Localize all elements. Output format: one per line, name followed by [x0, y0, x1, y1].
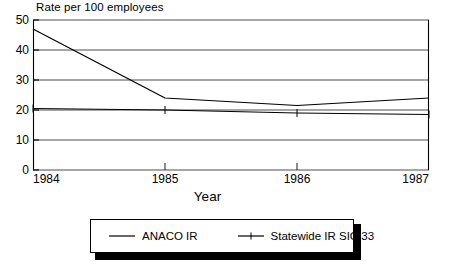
gridlines [33, 20, 429, 170]
x-axis-tick-labels: 1984 1985 1986 1987 [0, 172, 455, 188]
y-tick-label: 10 [1, 134, 29, 146]
legend-item-anaco-ir[interactable]: ANACO IR [109, 230, 198, 243]
x-tick-label: 1985 [152, 172, 179, 186]
x-axis-label-text: Year [194, 189, 221, 204]
plain-line-icon [109, 231, 135, 241]
axis-spines [34, 20, 429, 170]
plot-area [33, 20, 429, 170]
legend-item-label: Statewide IR SIC 33 [271, 230, 375, 243]
line-with-marker-icon [238, 231, 264, 241]
x-tick-label: 1986 [284, 172, 311, 186]
y-tick-label: 20 [1, 104, 29, 116]
y-tick-label: 50 [1, 14, 29, 26]
series-line-anaco-ir [33, 29, 429, 106]
y-axis-tick-labels: 50 40 30 20 10 0 [0, 20, 29, 170]
legend: ANACO IR Statewide IR SIC 33 [90, 219, 354, 253]
chart-title: Rate per 100 employees [36, 1, 164, 14]
plot-svg [33, 20, 429, 170]
series-line-statewide-ir-sic-33 [33, 109, 429, 115]
x-tick-label: 1987 [402, 172, 429, 186]
line-chart: Rate per 100 employees 50 40 30 20 10 0 [0, 0, 455, 276]
y-tick-label: 40 [1, 44, 29, 56]
x-axis-label: Year [0, 189, 455, 205]
legend-item-label: ANACO IR [142, 230, 198, 243]
y-tick-label: 30 [1, 74, 29, 86]
x-tick-label: 1984 [33, 172, 60, 186]
x-axis-ticks [165, 163, 297, 170]
legend-item-statewide-ir-sic-33[interactable]: Statewide IR SIC 33 [238, 230, 375, 243]
